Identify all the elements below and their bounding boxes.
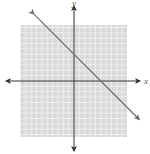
y-axis-label: y [71, 0, 76, 8]
x-axis-label: x [143, 76, 148, 86]
coordinate-plane: x y [0, 0, 150, 154]
